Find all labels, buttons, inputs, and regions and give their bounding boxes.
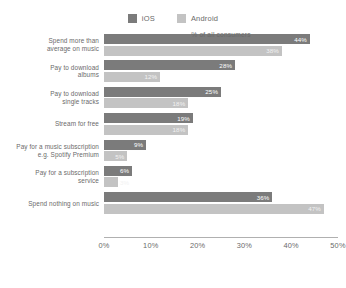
bar-value-label: 19% (177, 115, 193, 122)
x-axis-title: % of all consumers (104, 31, 338, 38)
category-label-line: average on music (0, 45, 99, 53)
bar-ios: 19% (104, 113, 193, 123)
bar-group: 28%12% (104, 59, 338, 83)
bar-value-label: 6% (120, 167, 132, 174)
x-tick-label: 50% (330, 241, 345, 250)
category-label-line: Spend more than (0, 37, 99, 45)
bar-value-label: 28% (219, 62, 235, 69)
bar-android: 18% (104, 98, 188, 108)
bar-value-label: 3% (118, 179, 129, 186)
bar-value-label: 5% (115, 153, 127, 160)
plot-area: Spend more thanaverage on music44%38%Pay… (0, 32, 346, 237)
bar-group: 25%18% (104, 86, 338, 110)
bar-group: 9%5% (104, 139, 338, 163)
x-tick-label: 20% (190, 241, 205, 250)
bar-value-label: 18% (173, 100, 189, 107)
category-label: Stream for free (0, 120, 104, 128)
legend-label-android: Android (191, 14, 218, 23)
bar-chart: iOS Android Spend more thanaverage on mu… (0, 0, 346, 288)
bar-value-label: 18% (173, 126, 189, 133)
category-label-line: service (0, 177, 99, 185)
bar-android: 38% (104, 46, 282, 56)
bar-group: 19%18% (104, 112, 338, 136)
bar-group: 36%47% (104, 191, 338, 215)
bar-android: 3% (104, 177, 118, 187)
category-label: Spend more thanaverage on music (0, 37, 104, 52)
category-label: Pay for a subscriptionservice (0, 169, 104, 184)
x-tick-label: 10% (143, 241, 158, 250)
bar-android: 12% (104, 72, 160, 82)
chart-row: Pay for a music subscriptione.g. Spotify… (0, 138, 346, 164)
x-axis-tick-labels: 0%10%20%30%40%50% (104, 241, 338, 255)
category-label-line: Stream for free (0, 120, 99, 128)
category-label-line: Pay to download (0, 90, 99, 98)
chart-row: Pay to downloadsingle tracks25%18% (0, 85, 346, 111)
bar-value-label: 36% (257, 194, 273, 201)
bar-value-label: 38% (266, 47, 282, 54)
bar-value-label: 12% (144, 73, 160, 80)
bar-value-label: 9% (134, 141, 146, 148)
x-tick-label: 30% (237, 241, 252, 250)
category-label: Pay for a music subscriptione.g. Spotify… (0, 143, 104, 158)
category-label-line: single tracks (0, 98, 99, 106)
category-label-line: Pay for a music subscription (0, 143, 99, 151)
bar-group: 6%3% (104, 165, 338, 189)
category-label: Pay to downloadalbums (0, 64, 104, 79)
x-tick-label: 0% (98, 241, 109, 250)
category-label-line: Spend nothing on music (0, 200, 99, 208)
chart-legend: iOS Android (0, 14, 346, 23)
bar-ios: 28% (104, 60, 235, 70)
category-label-line: Pay to download (0, 64, 99, 72)
chart-row: Pay to downloadalbums28%12% (0, 58, 346, 84)
bar-ios: 36% (104, 192, 272, 202)
chart-row: Pay for a subscriptionservice6%3% (0, 164, 346, 190)
bar-android: 47% (104, 204, 324, 214)
x-tick-label: 40% (283, 241, 298, 250)
category-label-line: albums (0, 71, 99, 79)
bar-android: 18% (104, 125, 188, 135)
legend-swatch-ios (128, 14, 137, 23)
bar-value-label: 47% (308, 205, 324, 212)
legend-item-android: Android (177, 14, 218, 23)
x-axis: 0%10%20%30%40%50% (0, 237, 346, 267)
category-label-line: e.g. Spotify Premium (0, 151, 99, 159)
category-label-line: Pay for a subscription (0, 169, 99, 177)
chart-row: Spend nothing on music36%47% (0, 190, 346, 216)
bar-ios: 9% (104, 140, 146, 150)
legend-label-ios: iOS (142, 14, 155, 23)
bar-value-label: 25% (205, 88, 221, 95)
chart-row: Stream for free19%18% (0, 111, 346, 137)
legend-item-ios: iOS (128, 14, 155, 23)
x-axis-line (104, 237, 338, 238)
legend-swatch-android (177, 14, 186, 23)
category-label: Spend nothing on music (0, 200, 104, 208)
bar-ios: 25% (104, 87, 221, 97)
bar-ios: 6% (104, 166, 132, 176)
bar-android: 5% (104, 151, 127, 161)
category-label: Pay to downloadsingle tracks (0, 90, 104, 105)
